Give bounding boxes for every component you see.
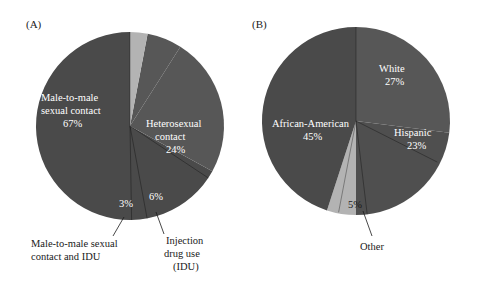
label-male-to-male-line2: sexual contact [41,105,101,116]
label-heterosexual-line2: contact [155,131,185,142]
label-hispanic-pct: 23% [407,140,427,151]
panel-b-tag: (B) [252,18,267,31]
label-heterosexual-line1: Heterosexual [146,118,201,129]
label-heterosexual-pct: 24% [166,144,186,155]
label-mm-idu-line1: Male-to-male sexual [31,238,118,249]
figure-root: (A) Male-to-male sexual contact 67% Hete… [0,0,489,281]
panel-a-tag: (A) [26,18,42,31]
label-african-american-pct: 45% [303,131,323,142]
pie-charts-svg: (A) Male-to-male sexual contact 67% Hete… [0,0,489,281]
panel-b: (B) White 27% Hispanic 23% African-Ameri… [252,18,450,252]
leader-line-other [363,211,372,236]
panel-a: (A) Male-to-male sexual contact 67% Hete… [26,18,224,273]
label-injection-line3: (IDU) [173,261,199,273]
label-mm-idu-line2: contact and IDU [31,251,101,262]
label-male-to-male-line1: Male-to-male [41,92,98,103]
label-hispanic-name: Hispanic [394,127,432,138]
label-idu-pct: 6% [149,191,163,202]
label-injection-line1: Injection [166,235,204,246]
label-african-american-name: African-American [272,118,350,129]
leader-line-idu [156,212,164,234]
label-other-pct: 5% [348,199,362,210]
label-white-name: White [379,63,405,74]
label-mm-idu-pct: 3% [119,198,133,209]
label-injection-line2: drug use [164,248,200,259]
label-male-to-male-pct: 67% [63,118,83,129]
leader-line-mm-idu [113,217,124,236]
label-other-name: Other [360,241,384,252]
label-white-pct: 27% [385,76,405,87]
